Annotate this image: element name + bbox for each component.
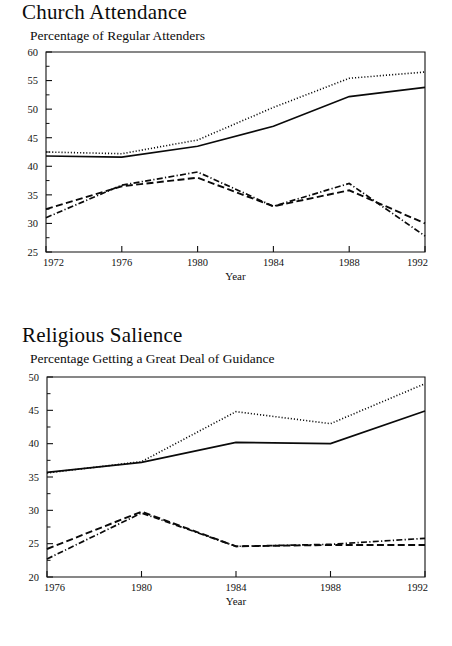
figure-religious-salience: Religious Salience Percentage Getting a … [0, 323, 452, 646]
x-axis-tick-label: 1992 [407, 257, 428, 268]
data-line-dashdot [47, 513, 425, 559]
y-axis-tick-label: 40 [29, 438, 40, 449]
data-line-solid [47, 411, 425, 472]
plot-area-church-attendance: 2530354045505560197219761980198419881992… [0, 44, 452, 284]
x-axis-tick-label: 1976 [44, 582, 65, 593]
data-line-dashed [47, 512, 425, 549]
y-axis-tick-label: 50 [29, 372, 40, 383]
line-chart-religious-salience: 2025303540455019761980198419881992Year [0, 367, 452, 607]
data-line-dotted [46, 72, 425, 154]
y-axis-tick-label: 50 [28, 104, 39, 115]
y-axis-tick-label: 30 [29, 505, 40, 516]
y-axis-tick-label: 25 [29, 538, 40, 549]
data-line-solid [46, 87, 425, 157]
y-axis-tick-label: 35 [28, 190, 39, 201]
y-axis-tick-label: 55 [28, 75, 39, 86]
y-axis-tick-label: 60 [28, 47, 39, 58]
y-axis-tick-label: 30 [28, 218, 39, 229]
plot-area-religious-salience: 2025303540455019761980198419881992Year [0, 367, 452, 607]
figure-title: Religious Salience [0, 323, 452, 348]
x-axis-tick-label: 1976 [111, 257, 132, 268]
figure-title: Church Attendance [0, 0, 452, 25]
figure-church-attendance: Church Attendance Percentage of Regular … [0, 0, 452, 323]
line-chart-church-attendance: 2530354045505560197219761980198419881992… [0, 44, 452, 284]
x-axis-tick-label: 1972 [43, 257, 64, 268]
y-axis-tick-label: 45 [28, 133, 39, 144]
x-axis-title: Year [226, 595, 247, 607]
x-axis-tick-label: 1984 [226, 582, 248, 593]
x-axis-tick-label: 1988 [320, 582, 341, 593]
data-line-dotted [47, 384, 425, 473]
x-axis-tick-label: 1980 [187, 257, 208, 268]
x-axis-tick-label: 1988 [339, 257, 360, 268]
x-axis-tick-label: 1980 [131, 582, 152, 593]
page-root: Church Attendance Percentage of Regular … [0, 0, 452, 646]
x-axis-tick-label: 1984 [263, 257, 285, 268]
y-axis-tick-label: 35 [29, 472, 40, 483]
figure-subtitle: Percentage Getting a Great Deal of Guida… [0, 348, 452, 367]
figure-subtitle: Percentage of Regular Attenders [0, 25, 452, 44]
plot-frame [46, 52, 425, 252]
y-axis-tick-label: 20 [29, 572, 40, 583]
x-axis-tick-label: 1992 [407, 582, 428, 593]
x-axis-title: Year [225, 270, 246, 282]
data-line-dashdot [46, 172, 425, 236]
data-line-dashed [46, 178, 425, 224]
y-axis-tick-label: 25 [28, 247, 39, 258]
y-axis-tick-label: 40 [28, 161, 39, 172]
y-axis-tick-label: 45 [29, 405, 40, 416]
